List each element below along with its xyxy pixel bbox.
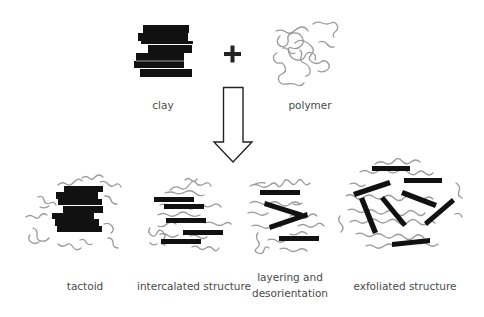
polymer-coil-icon — [273, 22, 337, 85]
clay-label: clay — [143, 98, 183, 113]
exfoliated-label: exfoliated structure — [345, 279, 465, 294]
intercalated-label: intercalated structure — [134, 279, 254, 294]
exfoliated-structure-icon — [339, 159, 462, 249]
polymer-label: polymer — [280, 98, 340, 113]
layering-label-line1: layering and — [250, 270, 330, 285]
layering-desorientation-icon — [248, 180, 324, 254]
down-arrow-icon — [214, 88, 252, 163]
plus-icon — [224, 46, 241, 63]
diagram-canvas — [0, 0, 484, 317]
layering-label-line2: desorientation — [250, 286, 330, 301]
tactoid-label: tactoid — [55, 279, 115, 294]
intercalated-structure-icon — [149, 179, 231, 251]
clay-stack-icon — [134, 25, 193, 77]
tactoid-structure-icon — [26, 175, 121, 250]
